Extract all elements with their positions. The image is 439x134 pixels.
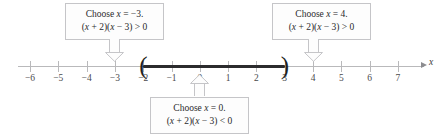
callout-line-1: Choose x = 0. (157, 102, 242, 115)
factor-one-tail: + 2)( (296, 22, 317, 32)
test-value: = −3. (121, 9, 144, 19)
tick-mark (341, 61, 342, 72)
tick-label: 7 (385, 74, 411, 84)
solution-segment (143, 65, 285, 68)
callout-test-point-middle: Choose x = 0.(x + 2)(x − 3) < 0 (150, 97, 249, 134)
callout-test-point-left: Choose x = −3.(x + 2)(x − 3) > 0 (65, 3, 164, 40)
pointer-shaft (194, 83, 205, 96)
left-open-paren: ( (139, 53, 147, 78)
factor-two-and-sign: − 3) < 0 (199, 116, 232, 126)
tick-label: −6 (17, 74, 43, 84)
tick-label: −1 (159, 74, 185, 84)
tick-mark (30, 61, 31, 72)
factor-two-and-sign: − 3) > 0 (321, 22, 354, 32)
callout-line-2: (x + 2)(x − 3) > 0 (279, 21, 364, 34)
right-open-paren: ) (281, 53, 289, 78)
callout-test-point-right: Choose x = 4.(x + 2)(x − 3) > 0 (272, 3, 371, 40)
test-value: = 4. (330, 9, 347, 19)
pointer-head (105, 52, 124, 62)
callout-line-1: Choose x = 4. (279, 8, 364, 21)
choose-word: Choose (295, 9, 326, 19)
tick-mark (58, 61, 59, 72)
tick-mark (398, 61, 399, 72)
test-value: = 0. (208, 103, 225, 113)
callout-line-2: (x + 2)(x − 3) < 0 (157, 115, 242, 128)
tick-label: −4 (74, 74, 100, 84)
axis-variable-label: x (429, 58, 433, 68)
choose-word: Choose (86, 9, 117, 19)
tick-mark (370, 61, 371, 72)
tick-label: −3 (102, 74, 128, 84)
tick-label: 6 (357, 74, 383, 84)
tick-label: 2 (243, 74, 269, 84)
tick-label: −5 (45, 74, 71, 84)
tick-mark (115, 61, 116, 72)
choose-word: Choose (173, 103, 204, 113)
tick-label: 5 (328, 74, 354, 84)
callout-line-1: Choose x = −3. (72, 8, 157, 21)
tick-label: 4 (300, 74, 326, 84)
factor-one-tail: + 2)( (174, 116, 195, 126)
number-line-figure: x −6−5−4−3−2−101234567 () Choose x = −3.… (0, 0, 439, 134)
tick-mark (313, 61, 314, 72)
tick-mark (87, 61, 88, 72)
factor-two-and-sign: − 3) > 0 (114, 22, 147, 32)
factor-one-tail: + 2)( (89, 22, 110, 32)
tick-label: 1 (215, 74, 241, 84)
callout-line-2: (x + 2)(x − 3) > 0 (72, 21, 157, 34)
pointer-head (190, 74, 209, 84)
axis-arrowhead-icon (421, 62, 427, 68)
pointer-shaft (308, 39, 319, 52)
pointer-shaft (109, 39, 120, 52)
pointer-head (304, 52, 323, 62)
